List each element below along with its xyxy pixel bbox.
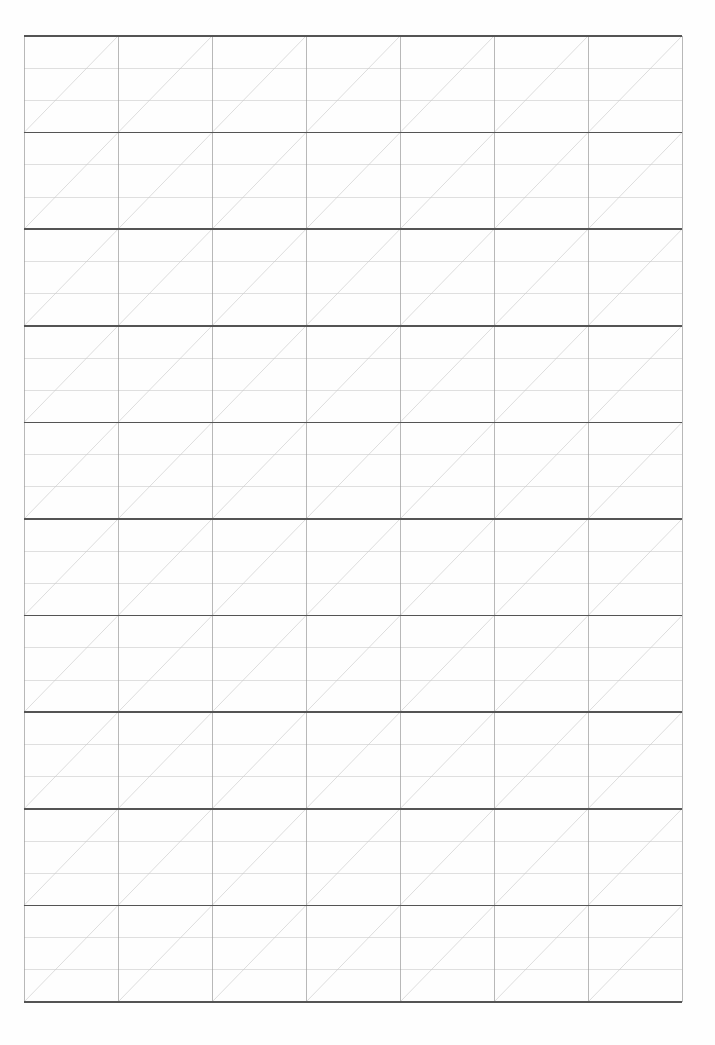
practice-sheet-page: [0, 0, 715, 1045]
practice-grid: [0, 0, 715, 1045]
paper-background: [0, 0, 715, 1045]
